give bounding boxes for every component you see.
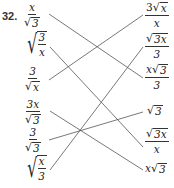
sqrt-symbol: √	[146, 128, 153, 140]
radicand: x	[32, 81, 40, 93]
sqrt-symbol: √	[27, 155, 37, 181]
radicand: 3	[31, 17, 40, 29]
numerator: 3	[29, 127, 38, 140]
sqrt-symbol: √	[25, 142, 32, 154]
left-expr-2: √3x	[24, 31, 47, 57]
sqrt-symbol: √	[25, 81, 32, 93]
right-expr-6: x√3	[145, 163, 167, 175]
match-line-L2-R5	[50, 47, 143, 147]
match-line-L4-R6	[50, 111, 143, 170]
radicand: x	[160, 2, 168, 14]
right-expr-3: x√33	[145, 64, 169, 90]
match-line-L1-R3	[49, 14, 143, 78]
numerator: 3x	[26, 99, 41, 112]
denominator: x	[154, 142, 160, 155]
radicand: 3	[154, 105, 163, 117]
match-line-L3-R1	[49, 15, 143, 80]
right-expr-1: 3√xx	[145, 2, 169, 28]
denominator: x	[39, 45, 45, 58]
left-expr-1: x√3	[24, 2, 40, 28]
denominator: 3	[38, 169, 45, 182]
radicand: 3	[159, 64, 168, 76]
right-expr-5: √3xx	[145, 128, 169, 154]
sqrt-symbol: √	[146, 33, 153, 45]
denominator: 3	[153, 47, 160, 60]
numerator: 3	[28, 66, 37, 79]
match-line-L5-R4	[49, 112, 143, 140]
radicand: 3	[158, 163, 167, 175]
left-expr-5: 3√3	[25, 127, 41, 153]
radicand: 3	[32, 142, 41, 154]
radicand: 3	[32, 114, 41, 126]
denominator: x	[154, 16, 160, 29]
radicand: 3x	[153, 128, 168, 140]
numerator: x	[28, 2, 36, 15]
left-expr-3: 3√x	[25, 66, 40, 92]
sqrt-symbol: √	[27, 31, 37, 57]
left-expr-6: √x3	[24, 155, 47, 181]
sqrt-symbol: √	[24, 17, 31, 29]
numerator: x	[38, 156, 46, 169]
match-line-L6-R2	[50, 47, 143, 170]
denominator: 3	[153, 78, 160, 91]
sqrt-symbol: √	[153, 2, 160, 14]
radicand: 3x	[153, 33, 168, 45]
sqrt-symbol: √	[152, 64, 159, 76]
right-expr-4: √3	[147, 105, 163, 117]
right-expr-2: √3x3	[145, 33, 169, 59]
numerator: 3	[38, 32, 47, 45]
left-expr-4: 3x√3	[25, 99, 41, 125]
coefficient: 3	[146, 1, 153, 13]
sqrt-symbol: √	[151, 163, 158, 175]
sqrt-symbol: √	[147, 105, 154, 117]
sqrt-symbol: √	[25, 114, 32, 126]
